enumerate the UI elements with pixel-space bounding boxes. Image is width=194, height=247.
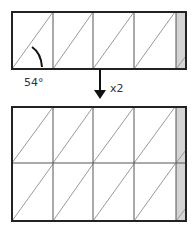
shaded-strip: [176, 12, 186, 69]
multiplier-label: x2: [110, 82, 124, 95]
top-panel: [12, 12, 186, 69]
bottom-panel: [12, 107, 186, 221]
angle-label: 54°: [24, 76, 44, 89]
angle-arc-icon: [32, 47, 42, 67]
diagram-canvas: [0, 0, 194, 247]
shaded-strip: [176, 107, 186, 221]
down-arrow-icon: [94, 69, 106, 99]
